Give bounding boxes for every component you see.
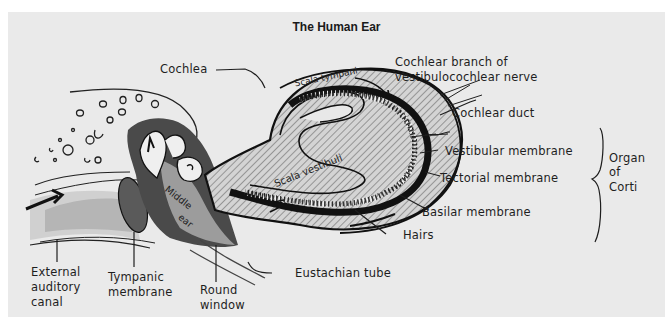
label-tympanic-1: Tympanic bbox=[108, 270, 164, 284]
label-cochlear-nerve-2: vestibulocochlear nerve bbox=[395, 70, 538, 84]
label-basilar-membrane: Basilar membrane bbox=[422, 205, 531, 219]
label-cochlea: Cochlea bbox=[160, 62, 207, 76]
label-tectorial-membrane: Tectorial membrane bbox=[440, 171, 558, 185]
label-organ-of-corti-2: of bbox=[609, 165, 621, 179]
label-tympanic-2: membrane bbox=[108, 285, 173, 299]
label-organ-of-corti-3: Corti bbox=[609, 180, 638, 194]
label-round-window-1: Round bbox=[200, 283, 237, 297]
label-cochlear-nerve-1: Cochlear branch of bbox=[395, 55, 508, 69]
label-cochlear-duct: Cochlear duct bbox=[452, 106, 534, 120]
label-eustachian-tube: Eustachian tube bbox=[295, 266, 391, 280]
label-hairs: Hairs bbox=[403, 228, 434, 242]
label-vestibular-membrane: Vestibular membrane bbox=[445, 144, 573, 158]
label-external-canal-2: auditory bbox=[31, 280, 81, 294]
label-organ-of-corti-1: Organ bbox=[609, 151, 645, 165]
label-external-canal-1: External bbox=[31, 265, 80, 279]
label-round-window-2: window bbox=[200, 298, 245, 312]
label-external-canal-3: canal bbox=[31, 295, 63, 309]
